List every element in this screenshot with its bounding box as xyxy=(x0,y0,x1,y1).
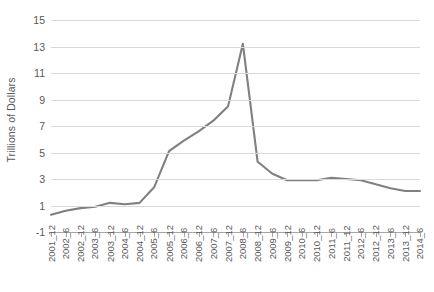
x-tick-label-text: 2010_12 xyxy=(311,225,322,262)
x-tick-label: 2005_6 xyxy=(147,238,162,290)
x-tick-label-text: 2013_12 xyxy=(400,225,411,262)
x-tick-label-text: 2011_6 xyxy=(326,228,337,259)
y-axis-tick-labels: 15131197531-1 xyxy=(22,15,48,233)
x-tick-label: 2006_6 xyxy=(176,238,191,290)
x-tick-label-text: 2004_6 xyxy=(119,228,130,260)
x-tick-label: 2011_6 xyxy=(324,238,339,290)
x-tick-label-text: 2010_6 xyxy=(296,228,307,260)
x-tick-label-text: 2002_6 xyxy=(60,228,71,260)
y-tick-label: 7 xyxy=(39,120,45,132)
x-tick-label: 2002_12 xyxy=(73,238,88,290)
x-tick-label: 2009_6 xyxy=(265,238,280,290)
x-tick-label-text: 2004_12 xyxy=(134,225,145,262)
x-tick-label: 2003_6 xyxy=(88,238,103,290)
x-tick-label-text: 2011_12 xyxy=(341,225,352,261)
x-tick-label-text: 2013_6 xyxy=(385,228,396,260)
x-tick-label: 2007_12 xyxy=(221,238,236,290)
x-tick-label: 2013_12 xyxy=(398,238,413,290)
x-tick-label-text: 2009_6 xyxy=(267,228,278,260)
line-chart: Trillions of Dollars 15131197531-1 2001_… xyxy=(0,0,434,292)
x-tick-label-text: 2006_6 xyxy=(178,228,189,260)
x-tick-label-text: 2008_12 xyxy=(252,225,263,262)
x-tick-label: 2007_6 xyxy=(206,238,221,290)
x-tick-label: 2010_6 xyxy=(295,238,310,290)
x-tick-label: 2010_12 xyxy=(309,238,324,290)
x-tick-label-text: 2007_12 xyxy=(223,225,234,262)
y-tick-label: 13 xyxy=(33,41,45,53)
x-tick-label: 2011_12 xyxy=(339,238,354,290)
y-tick-label: 15 xyxy=(33,14,45,26)
x-tick-label: 2005_12 xyxy=(162,238,177,290)
x-tick-label-text: 2001_12 xyxy=(46,225,57,262)
x-tick-label: 2001_12 xyxy=(44,238,59,290)
x-tick-label-text: 2003_6 xyxy=(90,228,101,260)
x-tick-label-text: 2012_12 xyxy=(370,225,381,262)
gridline xyxy=(51,153,420,154)
gridline xyxy=(51,179,420,180)
x-tick-label-text: 2014_6 xyxy=(414,228,425,260)
x-tick-label-text: 2005_6 xyxy=(149,228,160,260)
gridline xyxy=(51,20,420,21)
y-tick-label: 3 xyxy=(39,173,45,185)
x-tick-label: 2012_6 xyxy=(354,238,369,290)
x-tick-label-text: 2012_6 xyxy=(355,228,366,260)
gridline xyxy=(51,73,420,74)
x-tick-label-text: 2002_12 xyxy=(75,225,86,262)
y-tick-label: 1 xyxy=(39,200,45,212)
x-tick-label: 2004_12 xyxy=(132,238,147,290)
x-tick-label-text: 2008_6 xyxy=(237,228,248,260)
plot-area xyxy=(51,20,420,232)
y-tick-label: -1 xyxy=(36,226,45,238)
y-tick-label: 5 xyxy=(39,147,45,159)
gridline xyxy=(51,100,420,101)
y-tick-label: 9 xyxy=(39,94,45,106)
gridline xyxy=(51,206,420,207)
x-tick-label: 2014_6 xyxy=(413,238,428,290)
x-tick-label-text: 2007_6 xyxy=(208,228,219,260)
x-tick-label-text: 2003_12 xyxy=(105,225,116,262)
x-tick-label: 2002_6 xyxy=(58,238,73,290)
x-axis-tick-labels: 2001_122002_62002_122003_62003_122004_62… xyxy=(51,238,420,292)
gridline xyxy=(51,47,420,48)
x-tick-label-text: 2009_12 xyxy=(282,225,293,262)
x-tick-label: 2012_12 xyxy=(368,238,383,290)
x-tick-label-text: 2005_12 xyxy=(164,225,175,262)
y-axis-title-text: Trillions of Dollars xyxy=(5,77,17,162)
x-tick-label: 2008_6 xyxy=(236,238,251,290)
y-axis-title: Trillions of Dollars xyxy=(0,0,22,240)
x-tick-label-text: 2006_12 xyxy=(193,225,204,262)
series-polyline xyxy=(51,44,420,215)
gridline xyxy=(51,126,420,127)
x-tick-label: 2008_12 xyxy=(250,238,265,290)
x-tick-label: 2013_6 xyxy=(383,238,398,290)
x-tick-label: 2006_12 xyxy=(191,238,206,290)
x-tick-label: 2003_12 xyxy=(103,238,118,290)
x-tick-label: 2004_6 xyxy=(117,238,132,290)
y-tick-label: 11 xyxy=(34,67,45,79)
x-tick-label: 2009_12 xyxy=(280,238,295,290)
